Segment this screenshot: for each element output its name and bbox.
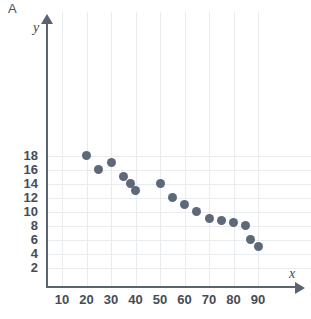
- data-point: [94, 165, 103, 174]
- x-axis-label: x: [289, 266, 295, 282]
- y-tick-label: 4: [12, 246, 38, 261]
- y-axis-arrow-icon: [41, 14, 53, 24]
- x-tick-label: 60: [172, 292, 198, 307]
- gridline-vertical: [87, 12, 88, 287]
- y-tick-label: 12: [12, 190, 38, 205]
- x-tick-label: 70: [196, 292, 222, 307]
- x-tick-label: 50: [147, 292, 173, 307]
- y-axis-line: [46, 22, 48, 288]
- data-point: [82, 151, 91, 160]
- y-tick-label: 18: [12, 148, 38, 163]
- data-point: [131, 186, 140, 195]
- gridline-vertical: [160, 12, 161, 287]
- gridline-horizontal: [46, 226, 311, 227]
- data-point: [168, 193, 177, 202]
- x-tick-label: 30: [98, 292, 124, 307]
- panel-letter: A: [8, 2, 17, 15]
- gridline-horizontal: [46, 184, 311, 185]
- gridline-vertical: [234, 12, 235, 287]
- gridline-horizontal: [46, 240, 311, 241]
- data-point: [180, 200, 189, 209]
- gridline-vertical: [136, 12, 137, 287]
- y-tick-label: 8: [12, 218, 38, 233]
- data-point: [192, 207, 201, 216]
- y-tick-label: 6: [12, 232, 38, 247]
- y-tick-label: 2: [12, 260, 38, 275]
- gridline-vertical: [185, 12, 186, 287]
- gridline-vertical: [62, 12, 63, 287]
- data-point: [205, 214, 214, 223]
- gridline-horizontal: [46, 198, 311, 199]
- y-tick-label: 10: [12, 204, 38, 219]
- plot-area: [46, 12, 311, 287]
- x-tick-label: 40: [123, 292, 149, 307]
- x-tick-label: 20: [74, 292, 100, 307]
- y-axis-label: y: [33, 20, 39, 36]
- x-tick-label: 90: [245, 292, 271, 307]
- y-tick-label: 14: [12, 176, 38, 191]
- data-point: [107, 158, 116, 167]
- x-axis-arrow-icon: [295, 282, 305, 294]
- gridline-vertical: [209, 12, 210, 287]
- data-point: [229, 218, 238, 227]
- data-point: [241, 221, 250, 230]
- scatter-plot-figure: A y x 24681012141618 102030405060708090: [0, 0, 311, 319]
- gridline-vertical: [111, 12, 112, 287]
- data-point: [254, 242, 263, 251]
- gridline-horizontal: [46, 254, 311, 255]
- x-tick-label: 10: [49, 292, 75, 307]
- gridline-horizontal: [46, 212, 311, 213]
- data-point: [217, 216, 226, 225]
- x-axis-line: [46, 286, 297, 288]
- gridline-horizontal: [46, 170, 311, 171]
- y-tick-label: 16: [12, 162, 38, 177]
- data-point: [156, 179, 165, 188]
- x-tick-label: 80: [221, 292, 247, 307]
- gridline-horizontal: [46, 268, 311, 269]
